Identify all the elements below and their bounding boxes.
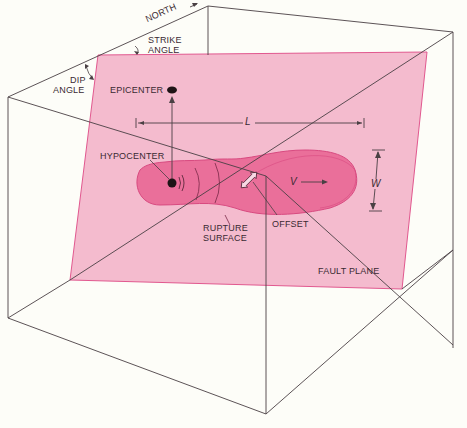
velocity-label: V	[290, 177, 297, 187]
epicenter-marker	[167, 87, 177, 94]
width-label: W	[371, 179, 381, 189]
hypocenter-marker	[168, 179, 177, 188]
dip-angle-label-line2: ANGLE	[53, 85, 85, 95]
hypocenter-label: HYPOCENTER	[100, 151, 165, 161]
fault-diagram: NORTH STRIKE ANGLE DIP ANGLE EPICENTER L…	[0, 0, 467, 428]
north-arrow	[190, 3, 198, 7]
offset-label: OFFSET	[272, 219, 309, 229]
strike-angle-label-line1: STRIKE	[148, 35, 182, 45]
diagram-canvas	[0, 0, 467, 428]
strike-angle-label-line2: ANGLE	[148, 45, 180, 55]
fault-plane-label: FAULT PLANE	[318, 266, 379, 276]
rupture-surface-label-line1: RUPTURE	[203, 223, 248, 233]
epicenter-label: EPICENTER	[110, 85, 163, 95]
rupture-surface-label-line2: SURFACE	[203, 233, 247, 243]
length-label: L	[245, 117, 251, 127]
dip-angle-label-line1: DIP	[70, 75, 86, 85]
